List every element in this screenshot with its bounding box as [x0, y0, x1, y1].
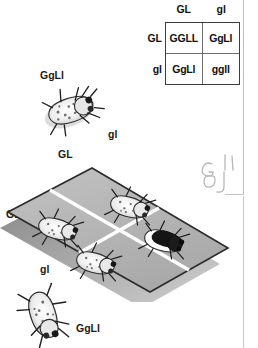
- punnett-cell: GgLl: [203, 23, 240, 54]
- punnett-board-3d: [0, 150, 235, 300]
- punnett-cell: GGLL: [166, 23, 203, 54]
- punnett-square: GL gl GL gl GGLL GgLl GgLl ggll: [165, 22, 240, 85]
- page-margin-rule-lower: [243, 196, 244, 348]
- punnett-row-headers: GL gl: [140, 22, 162, 85]
- punnett-cell: ggll: [203, 54, 240, 85]
- page-margin-rule-upper: [243, 0, 244, 194]
- board-top-label-gl-recessive: gl: [108, 128, 117, 140]
- punnett-cell: GgLl: [166, 54, 203, 85]
- figure-page: GL gl GL gl GGLL GgLl GgLl ggll GgLl GgL…: [0, 0, 258, 348]
- parent-top-genotype-label: GgLl: [40, 69, 64, 81]
- punnett-column-headers: GL gl: [165, 3, 240, 15]
- punnett-column-header-1: GL: [165, 3, 203, 15]
- punnett-row-header-1: GL: [140, 22, 162, 54]
- parent-fly-bottom: [8, 286, 80, 344]
- punnett-column-header-2: gl: [203, 3, 241, 15]
- punnett-row-header-2: gl: [140, 54, 162, 86]
- punnett-grid: GGLL GgLl GgLl ggll: [165, 22, 240, 85]
- parent-fly-top: [34, 84, 108, 136]
